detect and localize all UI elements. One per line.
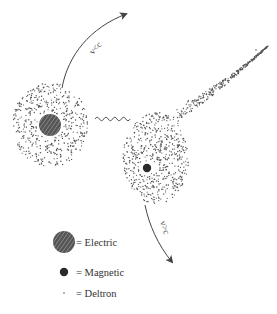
legend-deltron-label: = Deltron	[76, 288, 117, 299]
electric-core	[39, 114, 61, 136]
legend-magnetic-label: = Magnetic	[76, 267, 125, 278]
wavy-interaction-line	[95, 117, 130, 121]
magnetic-core	[143, 164, 151, 172]
legend-magnetic-icon	[60, 268, 68, 276]
particle-diagram: v<c v>c = Electric = Magnetic = Deltron	[0, 0, 277, 314]
legend-electric-label: = Electric	[76, 237, 118, 248]
legend: = Electric = Magnetic = Deltron	[53, 231, 125, 299]
legend-electric-icon	[53, 231, 75, 253]
legend-deltron-icon	[63, 292, 65, 294]
superluminal-label: v>c	[158, 220, 172, 236]
subluminal-label: v<c	[87, 40, 104, 57]
right-deltron-cloud	[123, 45, 269, 204]
